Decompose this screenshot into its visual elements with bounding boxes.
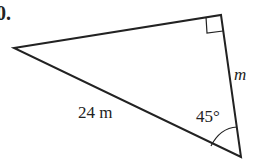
angle-label: 45° (196, 108, 220, 125)
triangle (14, 15, 241, 157)
right-angle-marker (206, 17, 223, 33)
triangle-diagram (0, 0, 253, 161)
unknown-side-label: m (234, 66, 246, 83)
angle-arc (211, 127, 237, 146)
hypotenuse-label: 24 m (78, 104, 112, 121)
